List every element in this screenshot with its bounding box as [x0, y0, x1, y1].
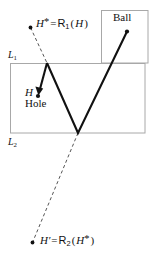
- label-l2-subscript: 2: [14, 141, 17, 148]
- arrow-to-hole: [35, 63, 47, 96]
- point-hprime-dot: [31, 241, 35, 245]
- label-l1-subscript: 1: [14, 54, 17, 61]
- point-hstar-dot: [29, 26, 33, 30]
- dashed-ray-hprime: [33, 133, 79, 243]
- label-h-star-subscript: 1: [65, 22, 69, 31]
- label-h-star-argument: H: [75, 17, 83, 29]
- label-h-prime-equals: =: [50, 234, 58, 246]
- label-h-star: H*=R1(H): [36, 17, 89, 30]
- label-l1: L1: [8, 50, 17, 61]
- point-ball-dot: [125, 29, 129, 33]
- label-hole: Hole: [25, 98, 46, 109]
- label-h-prime-operator: R: [59, 234, 67, 246]
- reflection-diagram: [0, 0, 154, 257]
- label-ball: Ball: [113, 12, 131, 23]
- label-h-prime-base: H: [40, 234, 48, 246]
- label-l2: L2: [8, 137, 17, 148]
- label-h-prime: H′=R2(H*): [40, 234, 95, 247]
- ball-trajectory-path: [47, 32, 127, 134]
- label-h-prime-paren-close: ): [90, 234, 96, 246]
- dashed-ray-hstar: [31, 28, 48, 64]
- label-h-star-base: H: [36, 17, 44, 29]
- label-h-prime-argument-asterisk: *: [84, 233, 89, 244]
- label-h-star-paren-close: ): [83, 17, 89, 29]
